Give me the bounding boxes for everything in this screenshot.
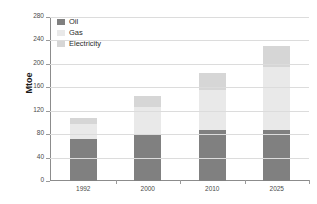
chart-legend: OilGasElectricity <box>57 17 101 50</box>
x-axis-tick-mark <box>116 180 117 184</box>
y-axis-tick-label: 80 <box>20 130 44 137</box>
bar-segment-oil[interactable] <box>263 130 290 181</box>
y-axis-tick-label: 160 <box>20 83 44 90</box>
x-axis-tick-label: 2000 <box>128 186 168 193</box>
y-axis-tick-label: 0 <box>20 177 44 184</box>
gridline <box>50 87 309 88</box>
y-axis-tick-label: 200 <box>20 60 44 67</box>
x-axis-tick-mark <box>180 180 181 184</box>
stacked-bar[interactable] <box>134 96 161 181</box>
legend-label: Electricity <box>69 40 101 48</box>
bar-segment-oil[interactable] <box>199 130 226 181</box>
legend-swatch-icon <box>57 19 65 25</box>
bar-group[interactable] <box>263 17 290 181</box>
stacked-bar[interactable] <box>263 46 290 181</box>
y-axis-tick-label: 280 <box>20 13 44 20</box>
x-axis-tick-label: 2025 <box>257 186 297 193</box>
bar-group[interactable] <box>199 17 226 181</box>
legend-swatch-icon <box>57 41 65 47</box>
legend-label: Gas <box>69 29 83 37</box>
legend-item-electricity[interactable]: Electricity <box>57 39 101 49</box>
gridline <box>50 158 309 159</box>
gridline <box>50 111 309 112</box>
bar-segment-gas[interactable] <box>263 67 290 130</box>
legend-label: Oil <box>69 18 78 26</box>
x-axis-tick-label: 1992 <box>63 186 103 193</box>
y-axis-tick-label: 240 <box>20 36 44 43</box>
gridline <box>50 134 309 135</box>
legend-swatch-icon <box>57 30 65 36</box>
legend-item-gas[interactable]: Gas <box>57 28 101 38</box>
x-axis-tick-mark <box>309 180 310 184</box>
bar-segment-gas[interactable] <box>70 124 97 139</box>
y-axis-tick-labels: 04080120160200240280 <box>18 0 44 204</box>
x-axis-tick-label: 2010 <box>192 186 232 193</box>
legend-item-oil[interactable]: Oil <box>57 17 101 27</box>
bar-segment-electricity[interactable] <box>134 96 161 108</box>
bar-group[interactable] <box>134 17 161 181</box>
y-axis-tick-label: 120 <box>20 107 44 114</box>
y-axis-tick-label: 40 <box>20 154 44 161</box>
x-axis-tick-mark <box>245 180 246 184</box>
stacked-bar-chart: Mtoe 04080120160200240280 OilGasElectric… <box>0 0 317 204</box>
stacked-bar[interactable] <box>199 73 226 181</box>
bar-segment-oil[interactable] <box>70 139 97 181</box>
gridline <box>50 64 309 65</box>
y-axis-tick-mark <box>46 181 50 182</box>
stacked-bar[interactable] <box>70 118 97 181</box>
